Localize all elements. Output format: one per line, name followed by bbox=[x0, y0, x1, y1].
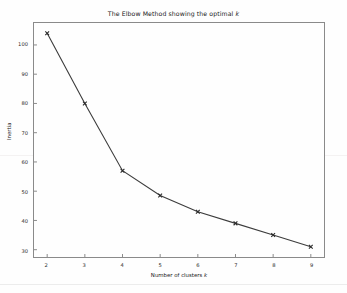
y-tick-label: 40 bbox=[6, 218, 28, 224]
x-tick-label: 4 bbox=[112, 262, 132, 268]
data-point-marker bbox=[45, 31, 49, 35]
y-tick-label: 90 bbox=[6, 71, 28, 77]
x-tick-label: 6 bbox=[188, 262, 208, 268]
bottom-divider bbox=[0, 284, 347, 285]
chart-title-italic-k: k bbox=[236, 10, 240, 17]
elbow-curve-line bbox=[47, 33, 311, 247]
x-axis-label-italic-k: k bbox=[204, 272, 207, 278]
x-tick-label: 2 bbox=[36, 262, 56, 268]
chart-title: The Elbow Method showing the optimal k bbox=[0, 10, 347, 17]
y-tick-label: 80 bbox=[6, 100, 28, 106]
x-tick-label: 8 bbox=[264, 262, 284, 268]
x-axis-label: Number of clusters k bbox=[33, 272, 325, 278]
y-tick-label: 100 bbox=[6, 41, 28, 47]
x-tick-label: 3 bbox=[74, 262, 94, 268]
chart-title-text: The Elbow Method showing the optimal bbox=[108, 10, 236, 17]
plot-frame bbox=[33, 22, 325, 258]
data-point-marker bbox=[121, 169, 125, 173]
x-tick-label: 7 bbox=[226, 262, 246, 268]
chart-figure: The Elbow Method showing the optimal k 3… bbox=[0, 0, 347, 293]
x-tick-label: 5 bbox=[150, 262, 170, 268]
x-axis-label-text: Number of clusters bbox=[151, 272, 204, 278]
data-point-marker bbox=[83, 102, 87, 106]
y-tick-label: 60 bbox=[6, 159, 28, 165]
y-tick-label: 50 bbox=[6, 189, 28, 195]
plot-svg bbox=[34, 23, 324, 257]
data-point-markers bbox=[34, 31, 313, 257]
y-tick-label: 30 bbox=[6, 248, 28, 254]
y-axis-label: Inertia bbox=[6, 123, 12, 140]
x-tick-label: 9 bbox=[302, 262, 322, 268]
